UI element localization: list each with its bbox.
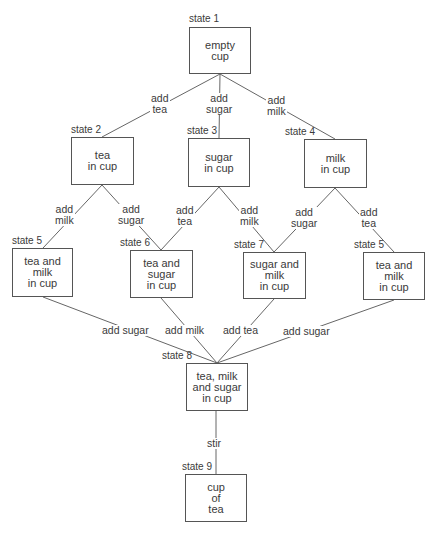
edge-label-add-sugar-3: add sugar (290, 207, 318, 229)
state-label-5a: state 5 (12, 236, 42, 246)
state-box-5a: tea and milk in cup (12, 248, 73, 297)
edge-label-add-milk-4: add milk (164, 325, 205, 336)
state-box-1: empty cup (189, 27, 251, 74)
edge-label-add-sugar-2: add sugar (117, 204, 145, 226)
edge-label-add-sugar-1: add sugar (205, 93, 233, 115)
state-label-1: state 1 (189, 14, 219, 24)
state-label-5b: state 5 (354, 240, 384, 250)
state-label-2: state 2 (71, 125, 101, 135)
state-box-6: tea and sugar in cup (130, 250, 193, 298)
state-box-9: cup of tea (185, 474, 247, 522)
edge-label-add-milk-3: add milk (239, 205, 260, 227)
state-label-9: state 9 (182, 462, 212, 472)
edge-label-add-tea-4: add tea (222, 325, 259, 336)
state-label-7: state 7 (234, 240, 264, 250)
edge-label-add-tea-3: add tea (359, 207, 379, 229)
edge-label-add-milk-2: add milk (54, 204, 75, 226)
state-label-8: state 8 (162, 351, 192, 361)
state-box-5b: tea and milk in cup (363, 252, 425, 300)
state-box-2: tea in cup (71, 137, 134, 185)
state-box-3: sugar in cup (188, 138, 250, 187)
edge-label-stir: stir (206, 438, 222, 449)
state-label-4: state 4 (285, 127, 315, 137)
edge-label-add-milk-1: add milk (266, 95, 287, 117)
edge-label-add-sugar-5: add sugar (282, 326, 331, 337)
state-label-3: state 3 (187, 126, 217, 136)
state-diagram: state 1 state 2 state 3 state 4 state 5 … (0, 0, 435, 534)
state-box-8: tea, milk and sugar in cup (186, 363, 248, 411)
edge-label-add-tea-1: add tea (150, 93, 170, 115)
state-box-7: sugar and milk in cup (243, 252, 306, 299)
state-box-4: milk in cup (304, 139, 367, 188)
edge-label-add-tea-2: add tea (175, 205, 195, 227)
edge-label-add-sugar-4: add sugar (101, 325, 150, 336)
state-label-6: state 6 (120, 238, 150, 248)
